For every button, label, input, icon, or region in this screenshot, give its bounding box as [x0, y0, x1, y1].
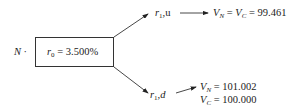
down-vn: VN = 101.002: [200, 82, 256, 93]
up-rate: r1,u: [155, 8, 170, 19]
root-rate: r0 = 3.500%: [47, 47, 98, 58]
down-rate: r1,d: [150, 90, 165, 101]
up-values: VN = VC = 99.461: [213, 8, 286, 19]
down-vc: VC = 100.000: [200, 95, 256, 106]
node-label: N ·: [14, 47, 26, 58]
